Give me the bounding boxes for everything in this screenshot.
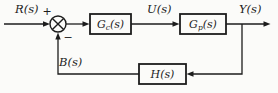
minus-sign: −: [64, 31, 73, 44]
block-diagram: R(s) + Gc(s) U(s) Gp(s) Y(s): [0, 0, 278, 93]
plant-block-label: Gp(s): [189, 18, 217, 33]
control-signal-label: U(s): [147, 2, 172, 16]
controller-symbol: G: [97, 18, 106, 31]
error-arrow: [66, 21, 90, 26]
plant-symbol: G: [189, 18, 198, 31]
summing-junction: [50, 16, 66, 32]
feedback-signal-label: B(s): [58, 55, 82, 69]
output-signal-label: Y(s): [239, 2, 261, 16]
control-signal-arrow: [131, 21, 180, 26]
summing-junction-cross: [52, 18, 63, 29]
input-signal-label: R(s): [14, 2, 39, 16]
plus-sign: +: [43, 5, 52, 18]
output-arrow: [226, 21, 271, 26]
controller-args: (s): [110, 18, 124, 31]
sensor-block-label: H(s): [150, 68, 175, 81]
controller-block-label: Gc(s): [97, 18, 124, 33]
input-arrow: [4, 21, 50, 26]
plant-args: (s): [203, 18, 217, 31]
